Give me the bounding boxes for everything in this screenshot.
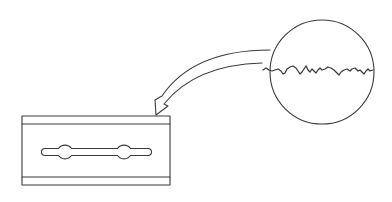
- blade-body: [22, 116, 170, 185]
- magnifier-circle: [263, 20, 374, 124]
- razor-blade: [22, 116, 170, 185]
- curved-arrow: [155, 50, 270, 115]
- razor-edge-diagram: [0, 0, 392, 202]
- diagram-canvas: [0, 0, 392, 202]
- arrow-outline: [155, 50, 270, 115]
